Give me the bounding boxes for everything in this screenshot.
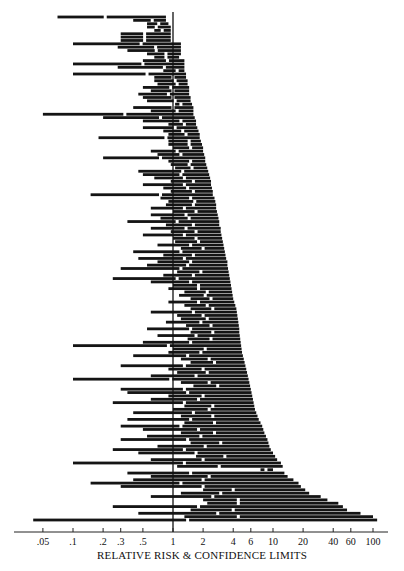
ci-bar-segment	[175, 89, 190, 92]
ci-bar-segment	[195, 224, 219, 227]
ci-bar-segment	[182, 103, 192, 106]
ci-bar-segment	[186, 234, 222, 237]
x-tick-label: 100	[366, 536, 381, 547]
ci-bar-segment	[73, 73, 146, 76]
ci-bar-segment	[151, 495, 211, 498]
ci-bar-segment	[188, 133, 200, 136]
ci-bar-segment	[179, 109, 194, 112]
ci-bar-segment	[91, 193, 159, 196]
ci-bar-segment	[182, 250, 224, 253]
ci-bar-segment	[121, 36, 143, 39]
ci-bar-segment	[182, 267, 228, 270]
ci-bar-segment	[207, 294, 233, 297]
confidence-interval-bars	[33, 16, 377, 522]
ci-bar-segment	[151, 475, 208, 478]
ci-bar-segment	[151, 281, 189, 284]
x-tick-label: .2	[99, 536, 107, 547]
ci-bar-segment	[173, 146, 189, 149]
ci-bar-segment	[168, 200, 193, 203]
ci-bar-segment	[205, 485, 301, 488]
ci-bar-segment	[184, 170, 208, 173]
ci-bar-segment	[173, 408, 208, 411]
ci-bar-segment	[214, 495, 320, 498]
ci-bar-segment	[154, 56, 164, 59]
ci-bar-segment	[154, 19, 166, 22]
ci-bar-segment	[184, 291, 205, 294]
ci-bar-segment	[211, 358, 244, 361]
ci-bar-segment	[205, 458, 278, 461]
ci-bar-segment	[192, 260, 227, 263]
ci-bar-segment	[222, 441, 268, 444]
ci-bar-segment	[143, 120, 180, 123]
ci-bar-segment	[138, 257, 183, 260]
ci-bar-segment	[121, 438, 186, 441]
ci-bar-segment	[200, 428, 263, 431]
ci-bar-segment	[195, 190, 213, 193]
ci-bar-segment	[163, 130, 181, 133]
ci-bar-segment	[191, 143, 202, 146]
ci-bar-segment	[192, 472, 284, 475]
ci-bar-segment	[181, 247, 202, 250]
ci-bar-segment	[133, 106, 171, 109]
ci-bar-segment	[184, 304, 205, 307]
ci-bar-segment	[175, 240, 197, 243]
ci-bar-segment	[198, 230, 221, 233]
ci-bar-segment	[189, 438, 267, 441]
ci-bar-segment	[173, 210, 195, 213]
ci-bar-segment	[177, 371, 206, 374]
ci-bar-segment	[192, 160, 205, 163]
ci-bar-segment	[192, 418, 259, 421]
ci-bar-segment	[162, 156, 205, 159]
ci-bar-segment	[200, 301, 234, 304]
ci-bar-segment	[127, 49, 154, 52]
ci-bar-segment	[143, 59, 166, 62]
ci-bar-segment	[143, 96, 172, 99]
ci-bar-segment	[168, 143, 187, 146]
ci-bar-segment	[188, 338, 210, 341]
ci-bar-segment	[166, 203, 192, 206]
ci-bar-segment	[209, 317, 238, 320]
ci-bar-segment	[205, 368, 247, 371]
ci-bar-segment	[118, 66, 163, 69]
ci-bar-segment	[179, 69, 185, 72]
ci-bar-segment	[209, 371, 247, 374]
ci-bar-segment	[186, 123, 196, 126]
ci-bar-segment	[196, 200, 215, 203]
ci-bar-segment	[191, 331, 212, 334]
ci-bar-segment	[151, 207, 183, 210]
ci-bar-segment	[216, 431, 264, 434]
ci-bar-segment	[166, 66, 185, 69]
x-tick-label: 6	[248, 536, 253, 547]
ci-bar-segment	[172, 86, 189, 89]
ci-bar-segment	[151, 398, 197, 401]
ci-bar-segment	[175, 167, 190, 170]
ci-bar-segment	[182, 425, 262, 428]
x-tick-label: .1	[69, 536, 77, 547]
ci-bar-segment	[147, 327, 189, 330]
ci-bar-segment	[151, 89, 172, 92]
ci-bar-segment	[164, 29, 171, 32]
ci-bar-segment	[189, 519, 377, 522]
ci-bar-segment	[177, 99, 191, 102]
ci-bar-segment	[172, 378, 248, 381]
ci-bar-segment	[138, 93, 167, 96]
ci-bar-segment	[143, 86, 169, 89]
ci-bar-segment	[221, 465, 283, 468]
ci-bar-segment	[143, 234, 183, 237]
ci-bar-segment	[198, 210, 217, 213]
ci-bar-segment	[211, 408, 255, 411]
ci-bar-segment	[205, 247, 225, 250]
ci-bar-segment	[179, 277, 230, 280]
ci-bar-segment	[191, 509, 232, 512]
ci-bar-segment	[175, 106, 194, 109]
ci-bar-segment	[143, 173, 180, 176]
ci-bar-segment	[166, 321, 199, 324]
ci-bar-segment	[181, 381, 208, 384]
ci-bar-segment	[171, 230, 195, 233]
ci-bar-segment	[198, 452, 273, 455]
ci-bar-segment	[158, 49, 181, 52]
ci-bar-segment	[175, 103, 179, 106]
ci-bar-segment	[211, 381, 250, 384]
ci-bar-segment	[147, 22, 157, 25]
ci-bar-segment	[173, 348, 204, 351]
